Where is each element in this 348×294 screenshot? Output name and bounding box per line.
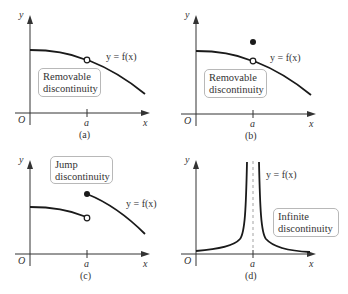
panel-caption: (a) [79,129,90,140]
discontinuity-label-box: Infinite discontinuity [273,208,339,237]
panel-b: y O a x y = f(x) Removable discontinuity… [174,0,348,147]
function-label: y = f(x) [106,51,137,62]
x-axis-label: x [143,117,147,128]
function-label: y = f(x) [270,52,301,63]
y-axis-label: y [19,154,23,165]
function-label: y = f(x) [126,198,157,209]
tick-a-label: a [84,117,89,128]
panel-caption: (d) [245,270,257,281]
y-axis-label: y [19,9,23,20]
panel-a: y O a x y = f(x) Removable discontinuity… [0,0,174,147]
label-line-1: Removable [43,71,96,83]
discontinuity-label-box: Removable discontinuity [204,69,267,98]
open-circle-icon [84,215,90,221]
y-axis-arrow-icon [193,15,199,24]
curve-left [196,51,251,61]
x-axis-arrow-icon [307,111,316,117]
curve-left [30,207,85,217]
origin-label: O [18,255,25,266]
filled-point-icon [250,39,256,45]
curve-left [30,50,85,60]
panel-caption: (b) [245,130,257,141]
label-line-2: discontinuity [209,84,262,96]
panel-c: y O a x y = f(x) Jump discontinuity (c) [0,147,174,294]
x-axis-label: x [309,258,313,269]
x-axis-label: x [309,118,313,129]
origin-label: O [184,255,191,266]
open-circle-icon [84,57,90,63]
y-axis-arrow-icon [27,15,33,24]
x-axis-arrow-icon [141,251,150,257]
x-axis-arrow-icon [141,110,150,116]
y-axis-label: y [185,154,189,165]
curve-left-branch [196,162,247,251]
x-axis-label: x [143,258,147,269]
discontinuity-label-box: Jump discontinuity [50,156,113,184]
y-axis-arrow-icon [193,160,199,169]
tick-a-label: a [250,118,255,129]
origin-label: O [184,115,191,126]
tick-a-label: a [84,258,89,269]
origin-label: O [18,114,25,125]
label-line-1: Removable [209,72,262,84]
label-line-2: discontinuity [278,223,334,235]
y-axis-label: y [185,9,189,20]
label-line-2: discontinuity [43,83,96,95]
filled-point-icon [84,191,90,197]
discontinuity-label-box: Removable discontinuity [38,68,101,97]
tick-a-label: a [250,258,255,269]
label-line-2: discontinuity [55,171,108,183]
panel-caption: (c) [80,270,91,281]
y-axis-arrow-icon [27,160,33,169]
panel-d: y O a x y = f(x) Infinite discontinuity … [174,147,348,294]
label-line-1: Jump [55,159,108,171]
function-label: y = f(x) [266,169,297,180]
label-line-1: Infinite [278,211,334,223]
open-circle-icon [250,58,256,64]
